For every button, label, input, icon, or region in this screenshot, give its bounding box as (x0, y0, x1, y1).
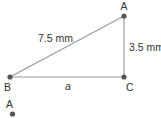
side-ab (10, 16, 124, 77)
side-bc-label: a (65, 80, 71, 92)
vertex-b-label: B (4, 81, 11, 93)
vertex-a-point (121, 13, 126, 18)
side-ac-length-label: 3.5 mm (129, 41, 161, 53)
extra-point-a (10, 111, 15, 116)
hypotenuse-length-label: 7.5 mm (38, 32, 73, 44)
vertex-c-point (121, 74, 126, 79)
vertex-a-label: A (121, 0, 128, 12)
vertex-c-label: C (126, 81, 134, 93)
extra-point-label: A (6, 98, 13, 110)
triangle-diagram: A B C A 7.5 mm 3.5 mm a (0, 0, 161, 118)
vertex-b-point (7, 74, 12, 79)
